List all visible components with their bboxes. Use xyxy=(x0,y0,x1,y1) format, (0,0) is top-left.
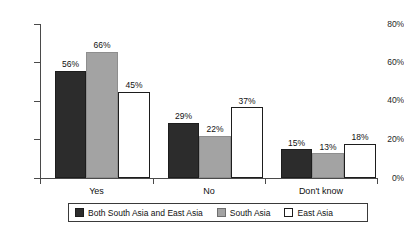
x-category-label-no: No xyxy=(153,186,265,197)
legend-label: East Asia xyxy=(297,208,332,218)
bar-no-south-asia[interactable] xyxy=(199,136,231,178)
x-tick-mark xyxy=(265,178,266,184)
x-tick-mark xyxy=(40,178,41,184)
bar-yes-south-asia[interactable] xyxy=(86,52,118,178)
bar-value-label: 18% xyxy=(334,132,386,142)
legend-item-both-south-asia-and-east-asia[interactable]: Both South Asia and East Asia xyxy=(75,208,203,218)
bar-no-east-asia[interactable] xyxy=(231,107,263,178)
x-tick-mark xyxy=(153,178,154,184)
bar-chart: 80% 60% 40% 20% 0% Yes No Don't know 56%… xyxy=(0,0,404,240)
legend-label: South Asia xyxy=(230,208,271,218)
legend-swatch-icon xyxy=(217,208,226,217)
x-category-label-dont-know: Don't know xyxy=(265,186,377,197)
bar-value-label: 66% xyxy=(76,40,128,50)
x-axis-line xyxy=(40,178,378,179)
bar-yes-both[interactable] xyxy=(55,71,86,178)
x-category-label-yes: Yes xyxy=(40,186,153,197)
bar-dontknow-east-asia[interactable] xyxy=(344,144,376,178)
bar-value-label: 29% xyxy=(158,111,209,121)
bar-value-label: 37% xyxy=(221,96,273,106)
legend-item-south-asia[interactable]: South Asia xyxy=(217,208,271,218)
x-tick-mark xyxy=(377,178,378,184)
bar-dontknow-both[interactable] xyxy=(281,149,312,178)
bar-value-label: 45% xyxy=(108,80,160,90)
plot-area: 56% 66% 45% 29% 22% 37% 15% 13% 18% xyxy=(40,25,378,178)
bar-yes-east-asia[interactable] xyxy=(118,92,150,178)
legend-swatch-icon xyxy=(284,208,293,217)
legend-swatch-icon xyxy=(75,208,84,217)
legend-item-east-asia[interactable]: East Asia xyxy=(284,208,332,218)
bar-dontknow-south-asia[interactable] xyxy=(312,153,344,178)
legend-label: Both South Asia and East Asia xyxy=(88,208,203,218)
chart-legend: Both South Asia and East Asia South Asia… xyxy=(68,203,368,222)
